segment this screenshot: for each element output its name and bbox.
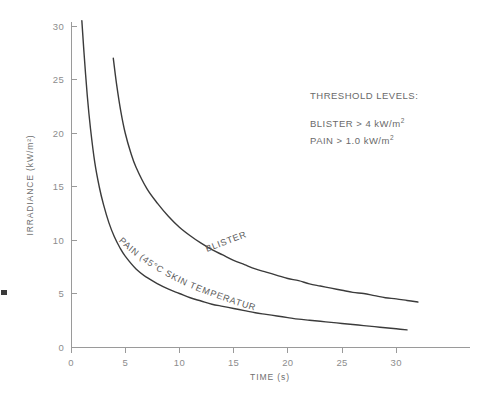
x-tick-label-15: 15 bbox=[228, 357, 239, 368]
chart-svg: 0 5 10 15 20 25 30 0 5 10 15 20 25 30 TI… bbox=[0, 0, 477, 397]
y-tick-label-5: 5 bbox=[58, 288, 64, 299]
threshold-pain-text: PAIN > 1.0 kW/m bbox=[310, 135, 390, 146]
threshold-line-blister: BLISTER > 4 kW/m2 bbox=[310, 117, 405, 129]
y-tick-label-20: 20 bbox=[53, 128, 64, 139]
x-tick-label-5: 5 bbox=[122, 357, 128, 368]
y-tick-label-10: 10 bbox=[53, 235, 64, 246]
y-tick-label-30: 30 bbox=[53, 21, 64, 32]
threshold-heading: THRESHOLD LEVELS: bbox=[310, 90, 418, 101]
threshold-blister-text: BLISTER > 4 kW/m bbox=[310, 118, 401, 129]
x-tick-label-25: 25 bbox=[336, 357, 347, 368]
x-axis-title: TIME (s) bbox=[250, 372, 290, 382]
y-axis-title: IRRADIANCE (kW/m²) bbox=[25, 134, 35, 235]
x-axis-ticks: 0 5 10 15 20 25 30 bbox=[68, 347, 402, 368]
x-tick-label-0: 0 bbox=[68, 357, 74, 368]
threshold-blister-sup: 2 bbox=[401, 117, 405, 124]
axes bbox=[71, 22, 470, 347]
y-tick-label-15: 15 bbox=[53, 181, 64, 192]
x-tick-label-30: 30 bbox=[391, 357, 402, 368]
x-tick-label-10: 10 bbox=[174, 357, 185, 368]
y-tick-label-25: 25 bbox=[53, 74, 64, 85]
y-tick-label-0: 0 bbox=[58, 342, 64, 353]
threshold-pain-sup: 2 bbox=[390, 134, 394, 141]
irradiance-chart: 0 5 10 15 20 25 30 0 5 10 15 20 25 30 TI… bbox=[0, 0, 477, 397]
y-axis-ticks: 0 5 10 15 20 25 30 bbox=[53, 21, 77, 353]
curve-label-pain: PAIN (45°C SKIN TEMPERATURE) bbox=[0, 0, 257, 313]
curve-label-blister: BLISTER bbox=[204, 229, 248, 254]
x-tick-label-20: 20 bbox=[282, 357, 293, 368]
threshold-annotation: THRESHOLD LEVELS: BLISTER > 4 kW/m2 PAIN… bbox=[310, 90, 418, 146]
data-curves bbox=[82, 21, 418, 330]
edge-artifact-mark bbox=[1, 290, 7, 295]
svg-text:PAIN (45°C SKIN TEMPERATURE): PAIN (45°C SKIN TEMPERATURE) bbox=[0, 0, 257, 313]
threshold-line-pain: PAIN > 1.0 kW/m2 bbox=[310, 134, 394, 146]
curve-pain bbox=[82, 21, 407, 330]
